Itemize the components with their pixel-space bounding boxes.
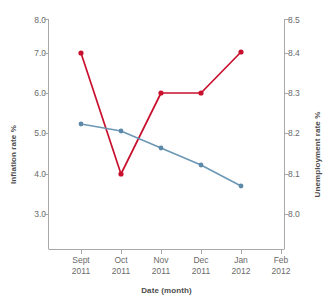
data-point <box>119 129 124 134</box>
y-axis-right-ticks <box>285 20 290 215</box>
data-point <box>239 184 244 189</box>
series-unemployment-line <box>81 124 241 186</box>
series-inflation-line <box>81 52 241 174</box>
series-unemployment-rate <box>79 122 244 189</box>
data-point <box>238 49 243 54</box>
data-point <box>79 122 84 127</box>
data-point <box>198 90 203 95</box>
data-point <box>199 163 204 168</box>
dual-axis-line-chart: Inflation rate % Unemployment rate % Dat… <box>0 0 333 304</box>
data-point <box>78 50 83 55</box>
data-point <box>159 146 164 151</box>
x-axis-ticks <box>82 250 282 255</box>
y-axis-left-ticks <box>44 20 49 215</box>
series-inflation-rate <box>78 49 243 176</box>
data-point <box>118 171 123 176</box>
data-point <box>158 90 163 95</box>
plot-area <box>0 0 333 304</box>
